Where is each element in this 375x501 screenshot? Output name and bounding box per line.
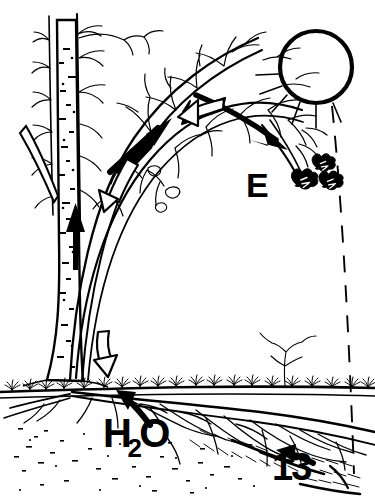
figure-illustration: E H2O 13 [0, 0, 375, 501]
root-system [4, 392, 375, 494]
label-evaporation: E [246, 168, 269, 202]
caption-faint-clipped [0, 489, 375, 501]
label-water-o: O [139, 411, 170, 455]
line-drawing-canvas [0, 0, 375, 501]
leaf-clusters [291, 154, 343, 190]
label-water: H2O [103, 413, 170, 461]
hollow-arrow-branch-upper [178, 98, 225, 126]
hollow-arrow-to-soil [94, 331, 117, 377]
label-figure-number: 13 [272, 448, 310, 486]
